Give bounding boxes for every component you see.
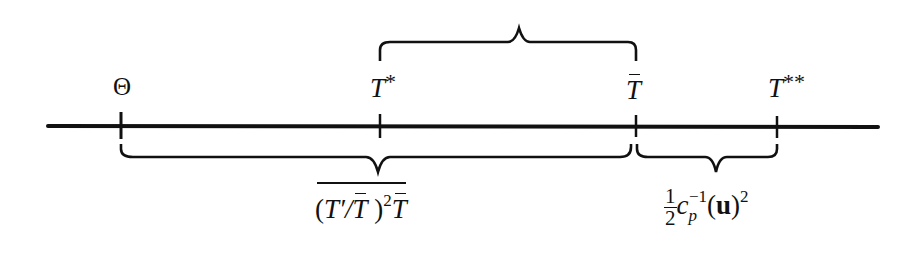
close-paren: ) xyxy=(731,190,740,220)
open-paren: ( xyxy=(707,190,716,220)
close-paren: ) xyxy=(374,194,383,224)
slash: / xyxy=(345,194,353,224)
formula-overline xyxy=(317,182,406,184)
axis-line xyxy=(48,126,878,127)
exponent-neg-one: −1 xyxy=(689,187,707,206)
label-mean-square-fluctuation: (T′/T )2T xyxy=(315,196,407,223)
star-mark: * xyxy=(385,69,396,94)
label-t-double-star: T** xyxy=(768,75,805,102)
u-vector: u xyxy=(716,190,731,220)
brace-bottom-long xyxy=(121,144,631,172)
brace-top xyxy=(380,28,636,61)
label-t-star: T* xyxy=(370,75,396,102)
t-bar: T xyxy=(392,196,407,223)
denominator: 2 xyxy=(664,208,677,229)
label-theta: Θ xyxy=(113,74,131,99)
double-star-mark: ** xyxy=(783,69,805,94)
t-bar: T xyxy=(352,196,367,223)
c-symbol: c xyxy=(677,190,689,220)
t-symbol: T xyxy=(370,73,385,103)
fraction-half: 12 xyxy=(664,186,677,229)
subscript-p: p xyxy=(688,206,697,225)
exponent-two: 2 xyxy=(383,191,392,210)
t-prime: T′ xyxy=(324,194,345,224)
label-kinetic-term: 12cp−1(u)2 xyxy=(664,186,749,229)
brace-bottom-short xyxy=(637,144,777,172)
exponent-two: 2 xyxy=(740,187,749,206)
numerator: 1 xyxy=(664,186,677,208)
open-paren: ( xyxy=(315,194,324,224)
label-t-bar: T xyxy=(626,77,641,104)
t-bar-symbol: T xyxy=(626,77,641,104)
t-symbol: T xyxy=(768,73,783,103)
number-line-diagram xyxy=(0,0,923,253)
theta-symbol: Θ xyxy=(113,73,131,100)
